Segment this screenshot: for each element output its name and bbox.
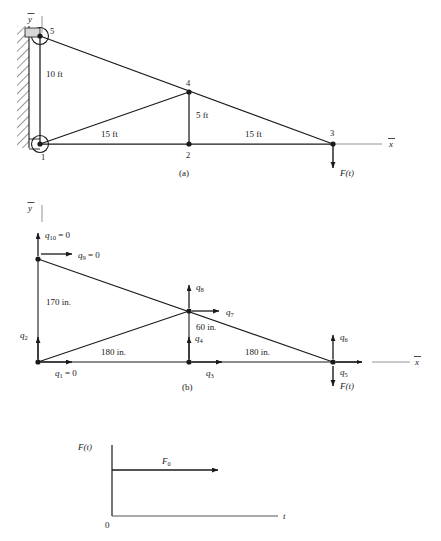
chart-origin-label: 0	[105, 520, 110, 530]
axis-y-label-a: y	[27, 14, 32, 24]
joint-node-2	[186, 141, 191, 146]
axis-x-label-a: x	[388, 139, 393, 149]
chart-y-axis-label: F(t)	[77, 442, 92, 452]
label-q6: q6	[340, 332, 349, 343]
node-label-3: 3	[330, 128, 334, 138]
dimension-span-right-b: 180 in.	[245, 347, 270, 357]
joint-b-node-3	[330, 359, 335, 364]
figure-root: y x	[0, 0, 441, 541]
joint-node-3	[330, 141, 335, 146]
axis-x-label-b: x	[414, 357, 419, 367]
panel-c-chart: F(t) t 0 F0	[77, 442, 286, 530]
label-q2: q2	[20, 330, 28, 341]
node-label-5: 5	[50, 26, 54, 36]
label-q8: q8	[196, 282, 204, 293]
label-q7: q7	[226, 307, 235, 318]
dimension-wall-height-b: 170 in.	[46, 297, 71, 307]
engineering-figure: y x	[0, 0, 441, 541]
dimension-span-left-a: 15 ft	[101, 129, 118, 139]
label-q4: q4	[195, 333, 204, 344]
joint-b-node-4	[186, 308, 191, 313]
joint-b-node-5	[35, 256, 40, 261]
node-label-4: 4	[186, 78, 191, 88]
joint-b-node-1	[35, 359, 40, 364]
caption-b: (b)	[182, 382, 193, 392]
label-q9: q9 = 0	[78, 250, 100, 261]
dimension-span-left-b: 180 in.	[101, 347, 126, 357]
label-q5: q5	[340, 367, 348, 378]
label-q1: q1 = 0	[55, 368, 77, 379]
dimension-wall-height-a: 10 ft	[46, 69, 63, 79]
dimension-mid-height-a: 5 ft	[196, 110, 209, 120]
chart-force-label: F0	[161, 456, 171, 467]
dimension-mid-height-b: 60 in.	[196, 322, 217, 332]
joint-b-node-2	[186, 359, 191, 364]
joint-node-4	[186, 89, 191, 94]
load-label-a: F(t)	[339, 168, 354, 178]
node-label-2: 2	[186, 150, 190, 160]
panel-a: y x	[17, 14, 395, 179]
chart-x-axis-label: t	[283, 511, 286, 521]
truss-members-b	[38, 259, 333, 362]
caption-a: (a)	[179, 168, 189, 178]
label-q3: q3	[206, 368, 214, 379]
dimension-span-right-a: 15 ft	[245, 129, 262, 139]
axis-y-label-b: y	[27, 203, 32, 213]
node-label-1: 1	[41, 152, 45, 162]
panel-b: y x	[20, 203, 421, 393]
truss-members-a	[40, 36, 333, 144]
load-label-b: F(t)	[339, 381, 354, 391]
wall-support-hatching	[17, 26, 29, 148]
label-q10: q10 = 0	[45, 230, 71, 241]
